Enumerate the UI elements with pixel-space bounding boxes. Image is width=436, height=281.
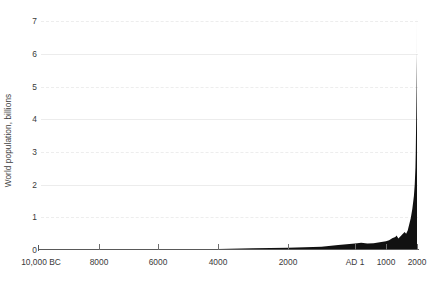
y-tick-label: 7 — [7, 16, 37, 26]
y-tick-label: 0 — [7, 245, 37, 255]
y-tick-label: 2 — [7, 180, 37, 190]
x-tick-mark — [355, 244, 356, 250]
x-tick-label: 2000 — [279, 257, 298, 267]
x-tick-mark — [288, 244, 289, 250]
x-tick-label: 2000 — [408, 257, 427, 267]
x-tick-label: AD 1 — [346, 257, 365, 267]
x-tick-label: 6000 — [149, 257, 168, 267]
x-tick-label: 4000 — [209, 257, 228, 267]
population-area-chart: World population, billions 76543210 10,0… — [0, 0, 436, 281]
y-axis-tick-labels: 76543210 — [4, 8, 37, 250]
x-tick-mark — [386, 244, 387, 250]
y-tick-label: 4 — [7, 114, 37, 124]
x-tick-mark — [417, 244, 418, 250]
x-tick-label: 10,000 BC — [21, 257, 61, 267]
y-tick-label: 5 — [7, 82, 37, 92]
x-tick-mark — [158, 244, 159, 250]
x-tick-mark — [99, 244, 100, 250]
population-area-series — [41, 8, 418, 250]
x-axis-line — [38, 249, 419, 250]
x-tick-mark — [218, 244, 219, 250]
x-tick-label: 8000 — [90, 257, 109, 267]
x-tick-label: 1000 — [377, 257, 396, 267]
y-tick-label: 3 — [7, 147, 37, 157]
y-tick-label: 6 — [7, 49, 37, 59]
y-tick-label: 1 — [7, 212, 37, 222]
x-axis-origin-stub — [38, 245, 39, 251]
